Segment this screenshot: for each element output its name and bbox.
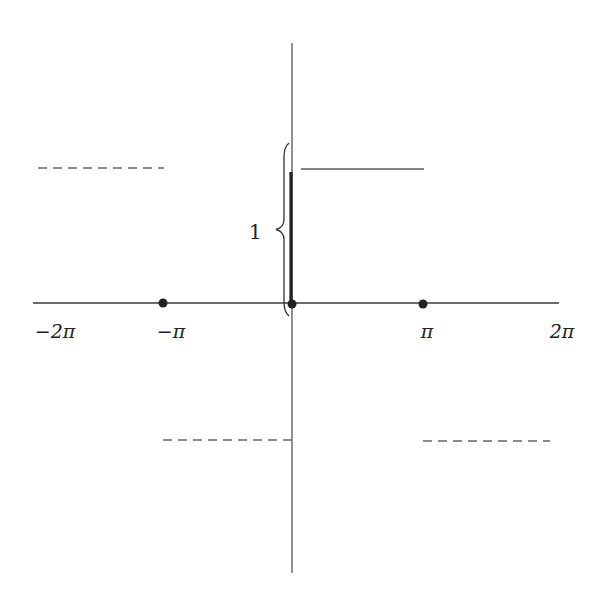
x-tick-labels: −2π−ππ2π	[35, 320, 575, 342]
dot-pi	[419, 300, 428, 309]
brace-label: 1	[249, 220, 262, 244]
step-function-diagram: 1 −2π−ππ2π	[0, 0, 607, 603]
dot-minus-pi	[159, 299, 168, 308]
x-tick-label: 2π	[549, 320, 575, 342]
x-tick-label: −2π	[35, 320, 76, 342]
x-tick-label: −π	[157, 320, 186, 342]
curly-brace-icon	[276, 143, 289, 316]
dot-origin	[288, 300, 297, 309]
x-tick-label: π	[420, 320, 434, 342]
